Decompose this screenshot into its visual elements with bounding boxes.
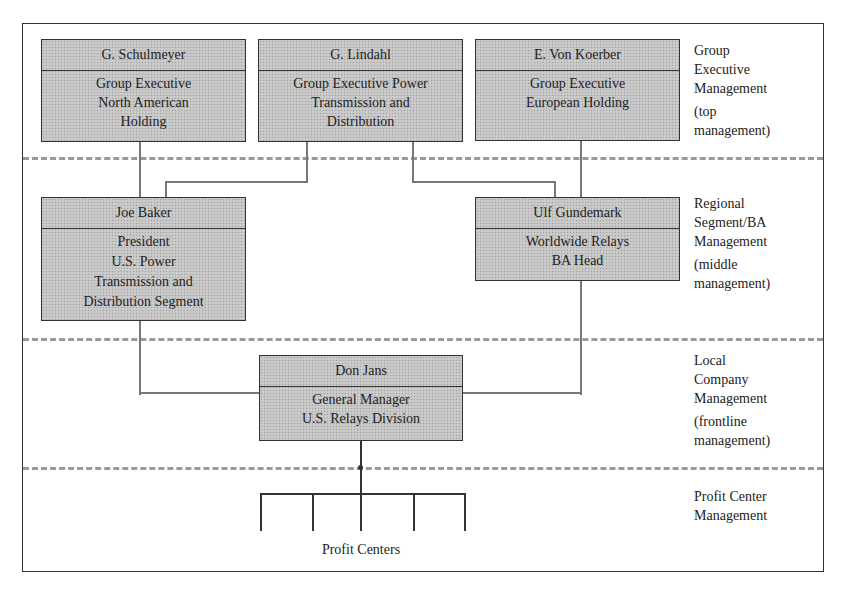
- profit-center-branch-4: [413, 493, 415, 531]
- node-name: E. Von Koerber: [476, 40, 679, 71]
- label-line: Executive: [694, 60, 770, 79]
- title-line: Distribution Segment: [42, 292, 245, 312]
- title-line: Holding: [42, 112, 245, 131]
- label-line: management): [694, 431, 770, 450]
- title-line: President: [42, 232, 245, 252]
- node-von-koerber: E. Von Koerber Group Executive European …: [475, 39, 680, 141]
- label-line: Management: [694, 389, 770, 408]
- node-title: President U.S. Power Transmission and Di…: [42, 229, 245, 312]
- label-line: management): [694, 274, 770, 293]
- connector-baker-jans: [139, 392, 260, 394]
- profit-center-branch-2: [312, 493, 314, 531]
- title-line: General Manager: [260, 390, 462, 409]
- node-title: Group Executive European Holding: [476, 71, 679, 112]
- connector-lindahl-left-across: [165, 181, 308, 183]
- node-name: Ulf Gundemark: [476, 198, 679, 229]
- connector-lindahl-left-down: [306, 141, 308, 183]
- level-sublabel: (middle management): [694, 255, 770, 293]
- connector-vonkoerber-gundemark: [580, 140, 582, 198]
- label-line: Company: [694, 370, 770, 389]
- level-sublabel: (frontline management): [694, 412, 770, 450]
- connector-lindahl-right-across: [412, 181, 556, 183]
- node-title: Group Executive North American Holding: [42, 71, 245, 131]
- connector-gundemark-down: [580, 280, 582, 395]
- node-name: Joe Baker: [42, 198, 245, 229]
- label-line: (middle: [694, 255, 770, 274]
- title-line: Transmission and: [42, 272, 245, 292]
- label-line: Segment/BA: [694, 213, 770, 232]
- node-title: Group Executive Power Transmission and D…: [259, 71, 462, 131]
- level-label-frontline: Local Company Management (frontline mana…: [694, 351, 770, 450]
- title-line: North American: [42, 93, 245, 112]
- title-line: U.S. Power: [42, 252, 245, 272]
- connector-gundemark-jans: [461, 392, 582, 394]
- level-label-middle: Regional Segment/BA Management (middle m…: [694, 194, 770, 293]
- level-divider-3: [23, 467, 823, 470]
- level-label-profit-center: Profit Center Management: [694, 487, 767, 525]
- node-name: Don Jans: [260, 356, 462, 387]
- title-line: Transmission and: [259, 93, 462, 112]
- label-line: management): [694, 121, 770, 140]
- node-title: Worldwide Relays BA Head: [476, 229, 679, 270]
- label-line: Management: [694, 506, 767, 525]
- connector-lindahl-right-down: [412, 141, 414, 183]
- node-gundemark: Ulf Gundemark Worldwide Relays BA Head: [475, 197, 680, 281]
- label-line: (top: [694, 102, 770, 121]
- node-baker: Joe Baker President U.S. Power Transmiss…: [41, 197, 246, 321]
- label-line: Profit Center: [694, 487, 767, 506]
- label-line: Group: [694, 41, 770, 60]
- node-lindahl: G. Lindahl Group Executive Power Transmi…: [258, 39, 463, 142]
- title-line: European Holding: [476, 93, 679, 112]
- level-sublabel: (top management): [694, 102, 770, 140]
- title-line: U.S. Relays Division: [260, 409, 462, 428]
- node-jans: Don Jans General Manager U.S. Relays Div…: [259, 355, 463, 441]
- connector-schulmeyer-baker: [139, 141, 141, 198]
- profit-centers-label: Profit Centers: [290, 542, 432, 558]
- profit-center-branch-5: [464, 493, 466, 531]
- connector-baker-down: [139, 320, 141, 395]
- level-divider-2: [23, 338, 823, 341]
- label-line: Management: [694, 232, 770, 251]
- label-line: Local: [694, 351, 770, 370]
- node-schulmeyer: G. Schulmeyer Group Executive North Amer…: [41, 39, 246, 142]
- title-line: Worldwide Relays: [476, 232, 679, 251]
- connector-jans-profit-centers: [360, 440, 362, 531]
- connector-lindahl-gundemark: [554, 181, 556, 198]
- label-line: (frontline: [694, 412, 770, 431]
- level-label-top: Group Executive Management (top manageme…: [694, 41, 770, 140]
- label-line: Regional: [694, 194, 770, 213]
- junction-dot: [358, 465, 363, 470]
- title-line: Distribution: [259, 112, 462, 131]
- node-name: G. Schulmeyer: [42, 40, 245, 71]
- profit-center-bar: [260, 493, 465, 495]
- node-title: General Manager U.S. Relays Division: [260, 387, 462, 428]
- title-line: Group Executive: [42, 74, 245, 93]
- connector-lindahl-baker: [165, 181, 167, 198]
- profit-center-branch-1: [260, 493, 262, 531]
- label-line: Management: [694, 79, 770, 98]
- title-line: Group Executive Power: [259, 74, 462, 93]
- level-divider-1: [23, 157, 823, 160]
- node-name: G. Lindahl: [259, 40, 462, 71]
- title-line: Group Executive: [476, 74, 679, 93]
- title-line: BA Head: [476, 251, 679, 270]
